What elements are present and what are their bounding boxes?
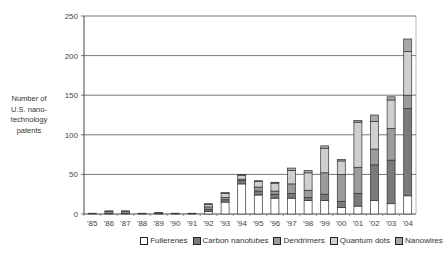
bar-segment <box>371 149 379 165</box>
x-tick-label: '99 <box>319 219 330 228</box>
bar-segment <box>238 181 246 184</box>
bar-segment <box>254 191 262 195</box>
bar-segment <box>371 165 379 201</box>
legend-swatch <box>395 237 403 245</box>
bar-segment <box>205 207 213 209</box>
x-tick-label: '85 <box>87 219 98 228</box>
bar-segment <box>321 173 329 194</box>
x-tick-label: '89 <box>153 219 164 228</box>
bar-segment <box>288 198 296 214</box>
bar-segment <box>337 208 345 214</box>
bar-segment <box>205 212 213 214</box>
bar-segment <box>304 173 312 190</box>
x-tick-label: '01 <box>353 219 364 228</box>
bar-segment <box>171 213 179 214</box>
bar-segment <box>304 170 312 172</box>
legend-item: Quantum dots <box>330 236 390 245</box>
bar-segment <box>354 167 362 193</box>
bar-segment <box>221 202 229 214</box>
legend-swatch <box>273 237 281 245</box>
x-tick-label: '90 <box>170 219 181 228</box>
bar-segment <box>371 121 379 149</box>
x-tick-label: '88 <box>137 219 148 228</box>
bar-segment <box>387 128 395 160</box>
bar-segment <box>304 197 312 200</box>
x-tick-label: '97 <box>286 219 297 228</box>
bar-segment <box>105 211 113 212</box>
x-tick-label: '86 <box>104 219 115 228</box>
bar-segment <box>371 115 379 121</box>
bar-segment <box>304 201 312 214</box>
bar-segment <box>254 187 262 191</box>
bar-segment <box>288 168 296 170</box>
x-tick-label: '95 <box>253 219 264 228</box>
legend-item: Nanowires <box>395 236 443 245</box>
x-tick-label: '00 <box>336 219 347 228</box>
bar-segment <box>122 211 130 212</box>
bar-segment <box>238 175 246 179</box>
bar-segment <box>271 182 279 183</box>
bar-segment <box>354 193 362 206</box>
bar-segment <box>354 206 362 214</box>
bar-segment <box>387 100 395 129</box>
bar-segment <box>387 97 395 100</box>
chart-legend: FullerenesCarbon nanotubesDendrimersQuan… <box>0 236 433 245</box>
bar-segment <box>337 174 345 201</box>
bar-segment <box>337 159 345 161</box>
bar-segment <box>221 197 229 199</box>
bar-segment <box>321 148 329 173</box>
legend-swatch <box>330 237 338 245</box>
bar-segment <box>288 184 296 194</box>
x-tick-label: '87 <box>120 219 131 228</box>
y-tick-label: 100 <box>65 131 79 140</box>
legend-label: Fullerenes <box>150 236 187 245</box>
x-tick-label: '92 <box>203 219 214 228</box>
bar-segment <box>321 201 329 214</box>
y-tick-label: 150 <box>65 91 79 100</box>
legend-swatch <box>140 237 148 245</box>
legend-swatch <box>193 237 201 245</box>
bar-segment <box>321 194 329 200</box>
bar-segment <box>88 213 96 214</box>
legend-item: Fullerenes <box>140 236 187 245</box>
bar-segment <box>354 121 362 123</box>
legend-label: Nanowires <box>405 236 443 245</box>
bar-segment <box>155 212 163 213</box>
bar-segment <box>205 204 213 205</box>
bar-segment <box>271 194 279 198</box>
bar-segment <box>288 193 296 198</box>
bar-segment <box>254 181 262 182</box>
y-tick-label: 50 <box>69 170 78 179</box>
bar-segment <box>404 196 412 214</box>
y-tick-label: 250 <box>65 12 79 21</box>
x-tick-label: '91 <box>187 219 198 228</box>
bar-segment <box>371 201 379 214</box>
bar-segment <box>404 52 412 96</box>
bar-segment <box>254 182 262 188</box>
legend-item: Carbon nanotubes <box>193 236 269 245</box>
bar-segment <box>271 198 279 214</box>
x-tick-label: '04 <box>402 219 413 228</box>
legend-item: Dendrimers <box>273 236 324 245</box>
x-tick-label: '93 <box>220 219 231 228</box>
bar-segment <box>354 122 362 167</box>
bar-segment <box>188 213 196 214</box>
bar-segment <box>221 193 229 197</box>
bar-segment <box>337 201 345 207</box>
bar-segment <box>238 184 246 214</box>
bar-segment <box>404 95 412 108</box>
bar-segment <box>271 183 279 191</box>
x-tick-label: '94 <box>236 219 247 228</box>
bar-segment <box>138 213 146 214</box>
legend-label: Carbon nanotubes <box>203 236 269 245</box>
bar-segment <box>321 146 329 148</box>
x-tick-label: '02 <box>369 219 380 228</box>
bar-segment <box>288 170 296 183</box>
x-tick-label: '03 <box>386 219 397 228</box>
bar-segment <box>271 191 279 194</box>
bar-segment <box>238 174 246 175</box>
bar-segment <box>304 190 312 197</box>
bar-segment <box>221 200 229 202</box>
y-tick-label: 200 <box>65 52 79 61</box>
